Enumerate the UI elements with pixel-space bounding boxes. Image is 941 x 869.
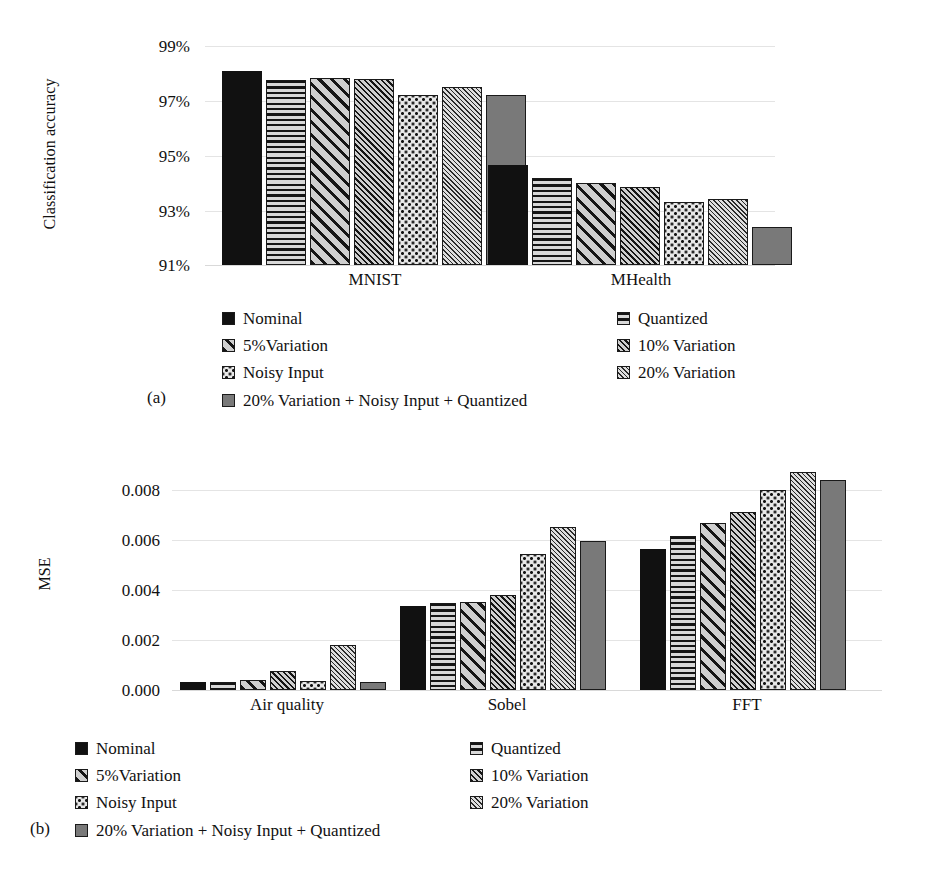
bar-fft-20pct-variation — [790, 472, 816, 690]
dotted-hatch-swatch-icon — [75, 796, 88, 809]
panel-b-ytick-0002: 0.002 — [75, 632, 160, 649]
bar-mnist-20pct-variation — [442, 87, 482, 265]
panel-b-ytick-0004: 0.004 — [75, 582, 160, 599]
legend-label-10pct-variation: 10% Variation — [491, 767, 588, 784]
bar-airquality-10pct-variation — [270, 671, 296, 690]
bar-sobel-5pct-variation — [460, 602, 486, 690]
panel-a-ytick-99: 99% — [130, 38, 190, 55]
bar-mhealth-10pct-variation — [620, 187, 660, 265]
legend-label-noisy-input: Noisy Input — [243, 364, 324, 381]
panel-a-legend-right-column: Quantized 10% Variation 20% Variation — [617, 305, 735, 386]
legend-label-20pct-variation: 20% Variation — [638, 364, 735, 381]
bar-fft-nominal — [640, 549, 666, 690]
legend-label-5pct-variation: 5%Variation — [96, 767, 181, 784]
panel-b-legend-left-column: Nominal 5%Variation Noisy Input — [75, 735, 181, 816]
panel-a-grouplabel-mnist: MNIST — [222, 270, 528, 290]
legend-label-nominal: Nominal — [243, 310, 303, 327]
legend-item-noisy-input[interactable]: Noisy Input — [222, 359, 328, 386]
panel-a-y-axis-label: Classification accuracy — [41, 44, 59, 264]
bar-fft-noisy-input — [760, 490, 786, 690]
bar-sobel-10pct-variation — [490, 595, 516, 690]
legend-item-10pct-variation[interactable]: 10% Variation — [470, 762, 588, 789]
bar-airquality-noisy-input — [300, 681, 326, 690]
fine-diagonal-hatch-swatch-icon — [617, 366, 630, 379]
panel-a-ytick-97: 97% — [130, 93, 190, 110]
bar-fft-combined — [820, 480, 846, 690]
legend-item-noisy-input[interactable]: Noisy Input — [75, 789, 181, 816]
solid-black-swatch-icon — [75, 742, 88, 755]
legend-item-combined[interactable]: 20% Variation + Noisy Input + Quantized — [222, 387, 527, 414]
panel-a-legend-combined-row: 20% Variation + Noisy Input + Quantized — [222, 387, 527, 414]
bar-mhealth-nominal — [488, 165, 528, 265]
panel-b-ytick-0008: 0.008 — [75, 482, 160, 499]
panel-b-mse: MSE 0.008 0.006 0.004 0.002 0.000 Air qu… — [0, 440, 941, 869]
panel-a-group-mhealth — [488, 46, 792, 265]
legend-item-quantized[interactable]: Quantized — [617, 305, 735, 332]
panel-b-legend-combined-row: 20% Variation + Noisy Input + Quantized — [75, 817, 380, 844]
bar-mnist-5pct-variation — [310, 78, 350, 265]
panel-a-ytick-95: 95% — [130, 148, 190, 165]
panel-a-tag: (a) — [147, 388, 166, 408]
panel-b-group-fft — [640, 470, 846, 690]
bar-mhealth-noisy-input — [664, 202, 704, 265]
fine-diagonal-hatch-swatch-icon — [470, 796, 483, 809]
legend-item-quantized[interactable]: Quantized — [470, 735, 588, 762]
bar-sobel-combined — [580, 541, 606, 690]
bar-sobel-quantized — [430, 603, 456, 690]
legend-item-nominal[interactable]: Nominal — [222, 305, 328, 332]
bar-sobel-noisy-input — [520, 554, 546, 690]
dotted-hatch-swatch-icon — [222, 366, 235, 379]
wide-diagonal-hatch-swatch-icon — [75, 769, 88, 782]
panel-b-group-air-quality — [180, 470, 386, 690]
panel-b-grouplabel-sobel: Sobel — [400, 695, 614, 715]
bar-mhealth-combined — [752, 227, 792, 265]
bar-mhealth-20pct-variation — [708, 199, 748, 265]
narrow-diagonal-hatch-swatch-icon — [617, 339, 630, 352]
legend-item-20pct-variation[interactable]: 20% Variation — [470, 789, 588, 816]
panel-a-grouplabel-mhealth: MHealth — [488, 270, 794, 290]
legend-item-5pct-variation[interactable]: 5%Variation — [222, 332, 328, 359]
legend-item-20pct-variation[interactable]: 20% Variation — [617, 359, 735, 386]
panel-b-ytick-0006: 0.006 — [75, 532, 160, 549]
bar-sobel-nominal — [400, 606, 426, 690]
bar-sobel-20pct-variation — [550, 527, 576, 690]
legend-label-nominal: Nominal — [96, 740, 156, 757]
legend-label-quantized: Quantized — [638, 310, 708, 327]
panel-b-legend-right-column: Quantized 10% Variation 20% Variation — [470, 735, 588, 816]
bar-mnist-10pct-variation — [354, 79, 394, 265]
legend-label-combined: 20% Variation + Noisy Input + Quantized — [243, 392, 527, 409]
legend-label-5pct-variation: 5%Variation — [243, 337, 328, 354]
solid-black-swatch-icon — [222, 312, 235, 325]
panel-a-legend-left-column: Nominal 5%Variation Noisy Input — [222, 305, 328, 386]
legend-item-10pct-variation[interactable]: 10% Variation — [617, 332, 735, 359]
horizontal-hatch-swatch-icon — [470, 742, 483, 755]
solid-gray-swatch-icon — [222, 394, 235, 407]
legend-label-20pct-variation: 20% Variation — [491, 794, 588, 811]
bar-airquality-quantized — [210, 682, 236, 690]
panel-b-tag: (b) — [30, 819, 50, 839]
legend-label-quantized: Quantized — [491, 740, 561, 757]
legend-item-combined[interactable]: 20% Variation + Noisy Input + Quantized — [75, 817, 380, 844]
legend-label-combined: 20% Variation + Noisy Input + Quantized — [96, 822, 380, 839]
bar-fft-5pct-variation — [700, 523, 726, 690]
panel-b-grouplabel-air-quality: Air quality — [180, 695, 394, 715]
legend-label-noisy-input: Noisy Input — [96, 794, 177, 811]
panel-a-axis-baseline — [205, 265, 775, 266]
bar-airquality-nominal — [180, 682, 206, 690]
legend-item-nominal[interactable]: Nominal — [75, 735, 181, 762]
panel-a-ytick-93: 93% — [130, 203, 190, 220]
bar-mnist-quantized — [266, 80, 306, 265]
panel-b-y-axis-label: MSE — [36, 484, 54, 664]
solid-gray-swatch-icon — [75, 824, 88, 837]
wide-diagonal-hatch-swatch-icon — [222, 339, 235, 352]
panel-b-axis-baseline — [172, 690, 882, 691]
panel-a-classification-accuracy: Classification accuracy 99% 97% 95% 93% … — [0, 0, 941, 440]
legend-item-5pct-variation[interactable]: 5%Variation — [75, 762, 181, 789]
bar-mnist-nominal — [222, 71, 262, 265]
bar-mhealth-quantized — [532, 178, 572, 265]
bar-fft-10pct-variation — [730, 512, 756, 690]
bar-airquality-5pct-variation — [240, 680, 266, 690]
panel-b-ytick-0000: 0.000 — [75, 682, 160, 699]
horizontal-hatch-swatch-icon — [617, 312, 630, 325]
panel-a-group-mnist — [222, 46, 526, 265]
